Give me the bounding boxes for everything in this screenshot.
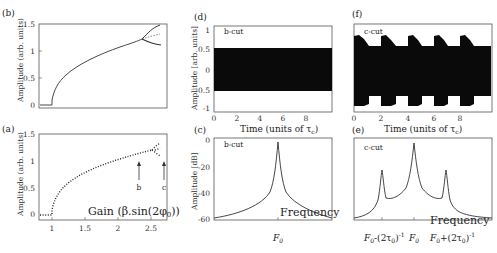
- panel-f-label: (f): [352, 9, 362, 19]
- panel-a-plot: 1.5 1 0.5 0 1 1.5 2 2.5 b c Gain (β.sin(…: [23, 130, 180, 233]
- upper-branch: [142, 25, 160, 39]
- panel-d-label: (d): [194, 12, 207, 22]
- panel-e-plot: c-cut Frequency: [354, 138, 492, 227]
- svg-text:8: 8: [458, 114, 463, 123]
- svg-text:0: 0: [205, 136, 210, 145]
- panel-a-xlabel: Gain (β.sin(2φ0)): [88, 205, 180, 219]
- F0-minus-tick: F0-(2τ0)-1: [363, 231, 405, 244]
- c-cut-spectrum: [354, 143, 492, 218]
- svg-text:1: 1: [205, 26, 210, 35]
- svg-text:-20: -20: [198, 163, 210, 172]
- svg-text:2.5: 2.5: [145, 224, 157, 233]
- panel-c-plot: 0 -20 -40 -60 b-cut Frequency: [198, 136, 340, 224]
- svg-text:0.5: 0.5: [198, 45, 210, 54]
- frequency-label-c: Frequency: [280, 206, 340, 219]
- svg-text:2: 2: [379, 114, 384, 123]
- svg-text:2: 2: [235, 114, 240, 123]
- panel-f-plot: c-cut 0 2 4 6 8: [352, 24, 492, 123]
- c-cut-label-e: c-cut: [364, 143, 383, 152]
- b-cut-signal: [214, 48, 332, 91]
- svg-text:1.5: 1.5: [79, 224, 91, 233]
- lower-branch: [142, 39, 161, 45]
- panel-d-ylabel: Amplitude [arb. units]: [190, 26, 199, 111]
- svg-text:-1: -1: [203, 104, 210, 113]
- svg-text:8: 8: [304, 114, 309, 123]
- svg-text:0: 0: [30, 210, 35, 219]
- arrow-b-label: b: [137, 183, 142, 192]
- b-cut-label-c: b-cut: [224, 140, 243, 149]
- c-cut-label-f: c-cut: [364, 27, 383, 36]
- bifurcation-curve: [40, 39, 142, 105]
- F0-plus-tick: F0+(2τ0)-1: [429, 231, 475, 244]
- panel-e-label: (e): [352, 125, 364, 135]
- panel-c-ylabel: Amplitude [dB]: [190, 152, 199, 211]
- frequency-label-e: Frequency: [430, 214, 490, 227]
- ytick: 1: [30, 47, 35, 56]
- F0-tick-c: F0: [272, 233, 283, 244]
- panel-a-label: (a): [2, 124, 14, 134]
- svg-text:4: 4: [406, 114, 411, 123]
- panel-f-xlabel: Time (units of τc): [384, 124, 462, 135]
- panel-b-ylabel: Amplitude (arb. units): [16, 18, 25, 103]
- svg-text:6: 6: [432, 114, 437, 123]
- svg-text:6: 6: [281, 114, 286, 123]
- svg-text:2: 2: [116, 224, 121, 233]
- panel-a-ylabel: Amplitude (arb. units): [16, 132, 25, 217]
- figure: (b) 1.5 1 0.5 0 Amplitude (arb. units) (…: [0, 0, 497, 253]
- svg-text:0: 0: [212, 114, 217, 123]
- svg-text:1: 1: [50, 224, 55, 233]
- svg-text:1: 1: [30, 157, 35, 166]
- svg-text:4: 4: [258, 114, 263, 123]
- panel-b-label: (b): [2, 8, 15, 18]
- svg-text:-60: -60: [198, 215, 210, 224]
- panel-b-plot: 1.5 1 0.5 0: [23, 20, 167, 110]
- ytick: 0: [30, 101, 35, 110]
- c-cut-signal: [354, 35, 491, 106]
- arrow-c: [162, 161, 166, 180]
- svg-text:0: 0: [352, 114, 357, 123]
- svg-text:0: 0: [205, 66, 210, 75]
- panel-c-label: (c): [194, 125, 206, 135]
- b-cut-label-d: b-cut: [224, 27, 243, 36]
- F0-tick-e: F0: [408, 233, 419, 244]
- svg-text:-40: -40: [198, 189, 210, 198]
- panel-d-xlabel: Time (units of τc): [240, 124, 318, 135]
- panel-d-plot: 1 0.5 0 -0.5 -1 b-cut 0 2 4 6 8: [196, 26, 332, 123]
- arrow-b: [137, 161, 141, 180]
- arrow-c-label: c: [162, 183, 166, 192]
